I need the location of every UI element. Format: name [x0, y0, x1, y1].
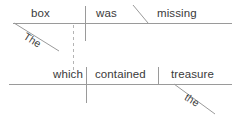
word-subject: box [31, 8, 50, 20]
word-direct-object: treasure [171, 69, 214, 81]
sentence-diagram: box was missing The which contained trea… [0, 0, 242, 118]
word-verb: was [96, 8, 117, 20]
predicate-adjective-slant [133, 5, 148, 23]
word-verb-contained: contained [95, 69, 146, 81]
word-relative-pronoun: which [53, 69, 83, 81]
word-predicate-adjective: missing [157, 8, 197, 20]
